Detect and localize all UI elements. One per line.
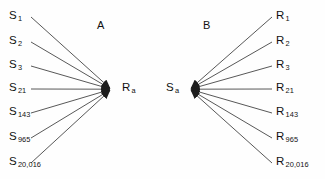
- node-sub-r143: 143: [286, 110, 299, 119]
- node-label-r21: R21: [276, 82, 294, 94]
- node-sub-r1: 1: [286, 14, 290, 23]
- node-base-sa: S: [166, 81, 174, 93]
- node-sub-s2: 2: [18, 39, 22, 48]
- node-label-s143: S143: [9, 106, 31, 118]
- node-sub-s21: 21: [18, 86, 26, 95]
- node-base-s3: S: [9, 58, 17, 70]
- edge-s2-to-ra: [31, 42, 110, 89]
- node-base-r20016: R: [276, 155, 284, 167]
- node-label-r965: R965: [276, 131, 298, 143]
- node-base-s2: S: [9, 34, 17, 46]
- edge-sa-to-r2: [191, 42, 272, 89]
- node-base-s21: S: [9, 81, 17, 93]
- node-sub-r965: 965: [286, 135, 299, 144]
- node-sub-s20016: 20,016: [18, 160, 41, 169]
- node-base-s965: S: [9, 130, 17, 142]
- node-sub-s143: 143: [18, 110, 31, 119]
- node-sub-s965: 965: [18, 135, 31, 144]
- node-label-s1: S1: [9, 10, 22, 22]
- node-sub-r2: 2: [286, 39, 290, 48]
- node-sub-ra: a: [132, 86, 136, 95]
- panel-a-edges: [31, 17, 110, 163]
- node-label-r2: R2: [276, 35, 290, 47]
- panel-label-b-text: B: [203, 19, 210, 31]
- panel-label-a: A: [97, 19, 104, 31]
- node-label-ra-hub: Ra: [122, 82, 136, 94]
- node-label-r3: R3: [276, 59, 290, 71]
- node-label-s965: S965: [9, 131, 31, 143]
- node-base-r965: R: [276, 130, 284, 142]
- node-label-r1: R1: [276, 10, 290, 22]
- node-base-s143: S: [9, 105, 17, 117]
- node-base-ra: R: [122, 81, 130, 93]
- edge-s965-to-ra: [31, 90, 110, 138]
- node-label-r20016: R20,016: [276, 156, 309, 168]
- node-base-r1: R: [276, 9, 284, 21]
- panel-b-edges: [191, 17, 272, 163]
- edge-sa-to-r965: [191, 90, 272, 138]
- node-sub-sa: a: [175, 86, 179, 95]
- node-base-s1: S: [9, 9, 17, 21]
- node-label-s2: S2: [9, 35, 22, 47]
- node-base-s20016: S: [9, 155, 17, 167]
- node-sub-r3: 3: [286, 63, 290, 72]
- node-sub-r20016: 20,016: [286, 160, 309, 169]
- node-label-s3: S3: [9, 59, 22, 71]
- panel-label-b: B: [203, 19, 210, 31]
- node-base-r3: R: [276, 58, 284, 70]
- node-base-r143: R: [276, 105, 284, 117]
- node-base-r2: R: [276, 34, 284, 46]
- node-label-sa-hub: Sa: [166, 82, 179, 94]
- node-base-r21: R: [276, 81, 284, 93]
- diagram-figure: A B S1 S2 S3 S21 S143 S965 S20,016 Ra Sa…: [0, 0, 325, 179]
- node-label-r143: R143: [276, 106, 298, 118]
- panel-label-a-text: A: [97, 19, 104, 31]
- node-sub-s1: 1: [18, 14, 22, 23]
- node-label-s21: S21: [9, 82, 26, 94]
- node-label-s20016: S20,016: [9, 156, 41, 168]
- node-sub-r21: 21: [286, 86, 294, 95]
- node-sub-s3: 3: [18, 63, 22, 72]
